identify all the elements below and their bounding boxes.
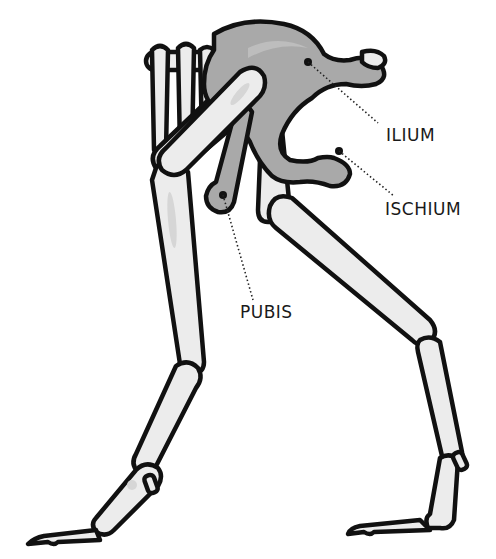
pelvis-limb-diagram: ILIUM ISCHIUM PUBIS [0, 0, 496, 559]
skeleton-drawing [0, 0, 496, 559]
label-ilium: ILIUM [386, 127, 435, 144]
label-ischium: ISCHIUM [385, 201, 461, 218]
label-pubis: PUBIS [240, 304, 293, 321]
